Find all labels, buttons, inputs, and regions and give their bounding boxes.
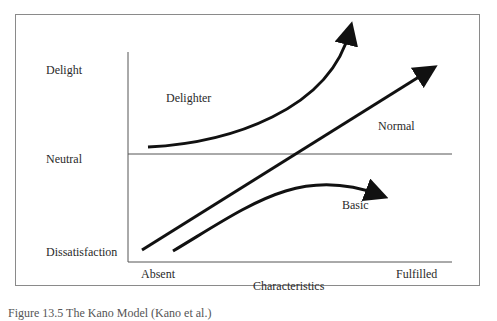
curve-label-delighter: Delighter [166,91,211,106]
x-label-fulfilled: Fulfilled [396,267,437,282]
y-label-dissatisfaction: Dissatisfaction [46,245,117,260]
x-label-absent: Absent [141,267,175,282]
figure-caption: Figure 13.5 The Kano Model (Kano et al.) [8,306,211,321]
basic-curve [173,185,380,251]
curve-label-basic: Basic [342,198,369,213]
delighter-curve [148,30,350,147]
x-axis-title: Characteristics [253,279,324,294]
y-label-delight: Delight [46,63,82,78]
curve-label-normal: Normal [378,119,415,134]
y-label-neutral: Neutral [46,152,82,167]
